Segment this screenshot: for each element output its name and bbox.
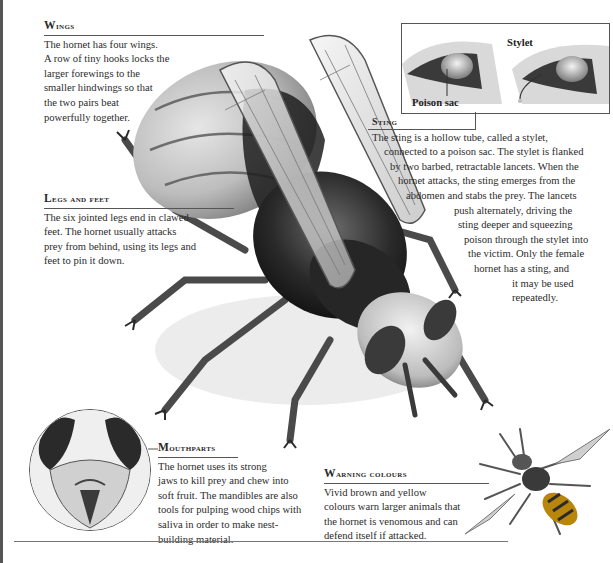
caption-line: it may be used (372, 277, 612, 292)
mouthparts-leader-line (148, 448, 158, 450)
caption-wings-heading: Wings (44, 18, 264, 36)
caption-line: the victim. Only the female (372, 247, 612, 262)
caption-line: feet to pin it down. (44, 254, 244, 269)
caption-line: abdomen and stabs the prey. The lancets (372, 189, 612, 204)
caption-line: by two barbed, retractable lancets. When… (372, 160, 612, 175)
caption-line: soft fruit. The mandibles are also (158, 489, 318, 504)
caption-wings: Wings The hornet has four wings. A row o… (44, 18, 274, 125)
caption-line: push alternately, driving the (372, 204, 612, 219)
hornet-dorsal-illustration (460, 424, 613, 549)
caption-line: tools for pulping wood chips with (158, 503, 318, 518)
label-stylet: Stylet (507, 37, 533, 48)
caption-line: The hornet has four wings. (44, 38, 274, 53)
caption-line: the two pairs beat (44, 96, 274, 111)
caption-line: powerfully together. (44, 111, 274, 126)
caption-line: smaller hindwings so that (44, 81, 274, 96)
caption-line: The sting is a hollow tube, called a sty… (372, 131, 612, 146)
caption-line: The hornet uses its strong (158, 460, 318, 475)
caption-line: poison through the stylet into (372, 233, 612, 248)
caption-line: A row of tiny hooks locks the (44, 52, 274, 67)
caption-sting: Sting The sting is a hollow tube, called… (372, 115, 612, 306)
label-poison-sac: Poison sac (412, 97, 459, 108)
caption-sting-heading: Sting (372, 115, 612, 130)
caption-line: connected to a poison sac. The stylet is… (372, 145, 612, 160)
caption-line: prey from behind, using its legs and (44, 240, 244, 255)
caption-line: feet. The hornet usually attacks (44, 225, 244, 240)
caption-line: building material. (158, 533, 318, 548)
page-left-border (0, 0, 3, 563)
page-bottom-rule (14, 541, 508, 542)
caption-line: larger forewings to the (44, 67, 274, 82)
caption-line: saliva in order to make nest- (158, 518, 318, 533)
caption-line: jaws to kill prey and chew into (158, 474, 318, 489)
caption-line: sting deeper and squeezing (372, 218, 612, 233)
caption-legs-and-feet: Legs and feet The six jointed legs end i… (44, 191, 244, 269)
mouthparts-closeup-illustration (29, 409, 151, 531)
caption-line: repeatedly. (372, 291, 612, 306)
caption-mouthparts: Mouthparts The hornet uses its strong ja… (158, 440, 318, 547)
caption-legs-heading: Legs and feet (44, 191, 234, 209)
sting-inset-diagram: Poison sac Stylet (401, 23, 610, 114)
caption-line: hornet has a sting, and (372, 262, 612, 277)
caption-line: hornet attacks, the sting emerges from t… (372, 174, 612, 189)
caption-mouthparts-heading: Mouthparts (158, 440, 238, 458)
caption-line: The six jointed legs end in clawed (44, 211, 244, 226)
